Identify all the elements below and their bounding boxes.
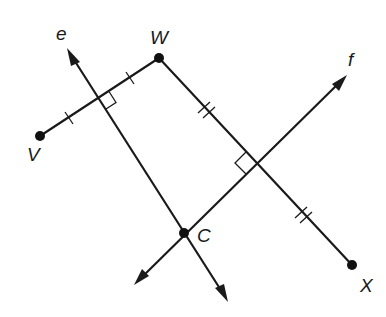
label-line-f: f [348, 49, 355, 70]
arrowhead-e-top [67, 48, 80, 66]
point-v [35, 131, 45, 141]
label-c: C [197, 225, 211, 246]
point-c [179, 228, 189, 238]
arrowhead-e-bottom [215, 284, 228, 302]
line-e [67, 48, 228, 302]
point-x [347, 260, 357, 270]
geometry-diagram: V W X C e f [0, 0, 386, 317]
right-angle-marker-f-wx [235, 152, 246, 174]
label-v: V [27, 144, 42, 165]
point-w [154, 53, 164, 63]
label-line-e: e [56, 23, 67, 44]
label-w: W [150, 27, 170, 48]
line-f [134, 75, 347, 285]
segment-vw [40, 58, 159, 136]
label-x: X [359, 275, 374, 296]
right-angle-marker-e-vw [106, 92, 116, 110]
